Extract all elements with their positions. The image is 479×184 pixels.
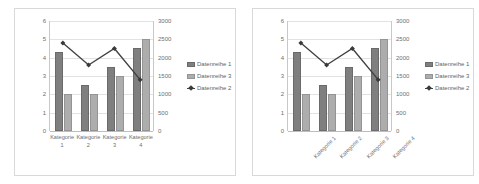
chart-legend[interactable]: Datenreihe 1Datenreihe 3Datenreihe 2	[187, 61, 231, 91]
legend-swatch-icon	[425, 74, 433, 79]
legend-item[interactable]: Datenreihe 3	[425, 73, 469, 79]
primary-y-axis[interactable]: 0123456	[15, 21, 49, 131]
chart-right: 0123456050010001500200025003000Kategorie…	[253, 9, 473, 175]
category-axis[interactable]: Kategorie 1Kategorie 2Kategorie 3Kategor…	[287, 133, 392, 169]
axis-tick-label: 1000	[154, 91, 188, 97]
axis-tick-label: 1500	[154, 73, 188, 79]
axis-tick-label: 0	[154, 128, 188, 134]
gridline	[50, 131, 153, 132]
legend-item[interactable]: Datenreihe 2	[187, 85, 231, 91]
axis-tick-label: 5	[20, 36, 49, 42]
line-path	[63, 43, 140, 80]
secondary-y-axis[interactable]: 050010001500200025003000	[392, 21, 428, 131]
legend-item[interactable]: Datenreihe 1	[187, 61, 231, 67]
chart-legend[interactable]: Datenreihe 1Datenreihe 3Datenreihe 2	[425, 61, 469, 91]
legend-label: Datenreihe 3	[197, 73, 231, 79]
axis-tick-label: 2	[258, 91, 287, 97]
legend-label: Datenreihe 2	[435, 85, 469, 91]
legend-label: Datenreihe 1	[197, 61, 231, 67]
category-axis[interactable]: Kategorie1Kategorie2Kategorie3Kategorie4	[49, 133, 154, 169]
axis-tick-label: 2500	[154, 36, 188, 42]
line-series-layer	[288, 21, 391, 131]
axis-tick-label: 1500	[392, 73, 426, 79]
legend-line-marker-icon	[187, 86, 195, 91]
category-label: Kategorie4	[126, 133, 156, 149]
category-label: Kategorie 2	[339, 135, 363, 159]
axis-tick-label: 3000	[392, 18, 426, 24]
legend-label: Datenreihe 1	[435, 61, 469, 67]
legend-label: Datenreihe 3	[435, 73, 469, 79]
line-series-layer	[50, 21, 153, 131]
axis-tick-label: 2000	[392, 55, 426, 61]
axis-tick-label: 4	[20, 55, 49, 61]
plot-area	[49, 21, 154, 131]
axis-tick-label: 6	[20, 18, 49, 24]
axis-tick-label: 0	[20, 128, 49, 134]
category-label: Kategorie 3	[365, 135, 389, 159]
legend-swatch-icon	[187, 74, 195, 79]
category-label: Kategorie 4	[391, 135, 415, 159]
legend-swatch-icon	[425, 62, 433, 67]
chart-panel-left[interactable]: 0123456050010001500200025003000Kategorie…	[14, 8, 236, 176]
axis-tick-label: 4	[258, 55, 287, 61]
axis-tick-label: 0	[258, 128, 287, 134]
primary-y-axis[interactable]: 0123456	[253, 21, 287, 131]
axis-tick-label: 6	[258, 18, 287, 24]
chart-left: 0123456050010001500200025003000Kategorie…	[15, 9, 235, 175]
axis-tick-label: 2	[20, 91, 49, 97]
legend-item[interactable]: Datenreihe 2	[425, 85, 469, 91]
axis-tick-label: 1	[258, 110, 287, 116]
axis-tick-label: 3	[20, 73, 49, 79]
legend-line-marker-icon	[425, 86, 433, 91]
axis-tick-label: 5	[258, 36, 287, 42]
axis-tick-label: 1	[20, 110, 49, 116]
axis-tick-label: 2500	[392, 36, 426, 42]
axis-tick-label: 0	[392, 128, 426, 134]
axis-tick-label: 1000	[392, 91, 426, 97]
legend-swatch-icon	[187, 62, 195, 67]
gridline	[288, 131, 391, 132]
axis-tick-label: 3	[258, 73, 287, 79]
legend-item[interactable]: Datenreihe 3	[187, 73, 231, 79]
secondary-y-axis[interactable]: 050010001500200025003000	[154, 21, 190, 131]
chart-comparison-page: 0123456050010001500200025003000Kategorie…	[0, 0, 479, 184]
category-label: Kategorie 1	[313, 135, 337, 159]
axis-tick-label: 2000	[154, 55, 188, 61]
axis-tick-label: 500	[154, 110, 188, 116]
axis-tick-label: 500	[392, 110, 426, 116]
legend-label: Datenreihe 2	[197, 85, 231, 91]
legend-item[interactable]: Datenreihe 1	[425, 61, 469, 67]
axis-tick-label: 3000	[154, 18, 188, 24]
plot-area	[287, 21, 392, 131]
line-path	[301, 43, 378, 80]
chart-panel-right[interactable]: 0123456050010001500200025003000Kategorie…	[252, 8, 474, 176]
